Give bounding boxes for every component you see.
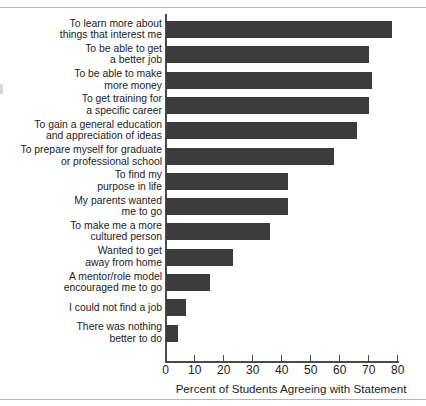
x-axis-tick: [194, 355, 195, 362]
bar-category-label: There was nothing better to do: [0, 322, 162, 345]
bar-category-label: To learn more about things that interest…: [0, 18, 162, 41]
x-axis-tick: [281, 355, 282, 362]
bar-category-label: To find my purpose in life: [0, 170, 162, 193]
horizontal-bar-chart: To learn more about things that interest…: [0, 0, 426, 406]
x-axis-tick: [223, 355, 224, 362]
bar[interactable]: [166, 325, 178, 342]
bar-row: To prepare myself for graduate or profes…: [0, 144, 426, 169]
bar-row: A mentor/role model encouraged me to go: [0, 270, 426, 295]
x-axis-tick: [397, 355, 398, 362]
bar-row: To be able to make more money: [0, 68, 426, 93]
x-axis-tick: [339, 355, 340, 362]
bar[interactable]: [166, 274, 210, 291]
bar-row: To be able to get a better job: [0, 42, 426, 67]
bar-row: My parents wanted me to go: [0, 194, 426, 219]
bar-row: To get training for a specific career: [0, 93, 426, 118]
bar-category-label: To make me a more cultured person: [0, 220, 162, 243]
bar[interactable]: [166, 198, 288, 215]
bar-category-label: To be able to make more money: [0, 69, 162, 92]
bar-row: To learn more about things that interest…: [0, 17, 426, 42]
bar-category-label: My parents wanted me to go: [0, 195, 162, 218]
bar-category-label: To prepare myself for graduate or profes…: [0, 144, 162, 167]
bar[interactable]: [166, 46, 369, 63]
bar[interactable]: [166, 249, 233, 266]
bar-row: I could not find a job: [0, 295, 426, 320]
bar-category-label: I could not find a job: [0, 302, 162, 314]
bar[interactable]: [166, 21, 392, 38]
bar[interactable]: [166, 299, 186, 316]
chart-page: To learn more about things that interest…: [0, 0, 426, 406]
bar-category-label: To gain a general education and apprecia…: [0, 119, 162, 142]
x-axis-tick-label: 80: [378, 363, 418, 377]
bar-row: To make me a more cultured person: [0, 219, 426, 244]
x-axis-tick: [368, 355, 369, 362]
x-axis-tick: [310, 355, 311, 362]
bar-category-label: A mentor/role model encouraged me to go: [0, 271, 162, 294]
bar-row: To find my purpose in life: [0, 169, 426, 194]
bar-row: Wanted to get away from home: [0, 245, 426, 270]
bar-category-label: To be able to get a better job: [0, 43, 162, 66]
bar[interactable]: [166, 173, 288, 190]
x-axis-title: Percent of Students Agreeing with Statem…: [165, 382, 417, 395]
bar-category-label: Wanted to get away from home: [0, 246, 162, 269]
bar[interactable]: [166, 223, 270, 240]
bar-row: To gain a general education and apprecia…: [0, 118, 426, 143]
bar-category-label: To get training for a specific career: [0, 94, 162, 117]
x-axis-tick: [165, 355, 166, 362]
bar[interactable]: [166, 148, 334, 165]
bar[interactable]: [166, 122, 357, 139]
bar[interactable]: [166, 97, 369, 114]
bar[interactable]: [166, 72, 372, 89]
bar-row: There was nothing better to do: [0, 321, 426, 346]
x-axis-tick: [252, 355, 253, 362]
